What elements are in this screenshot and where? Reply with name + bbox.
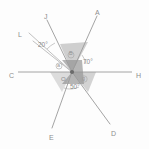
vertex-label-a: A [95, 9, 100, 16]
vertex-label-e: E [49, 134, 54, 141]
center-label-o: O [61, 76, 66, 82]
mark-label-a: a [57, 63, 60, 69]
vertex-label-c: C [9, 72, 14, 79]
vertex-label-d: D [111, 130, 116, 137]
vertex-label-j: J [44, 13, 48, 20]
angle-label-70: 70° [83, 59, 93, 66]
mark-label-g: g [82, 76, 85, 82]
figure-canvas [0, 0, 149, 149]
angle-label-20: 20° [38, 42, 48, 49]
vertex-label-l: L [18, 31, 22, 38]
arc-20 [47, 43, 55, 49]
angle-label-50: 50° [70, 84, 80, 91]
center-point-o [70, 70, 74, 74]
geometry-figure: J A L C H E D 20° 70° 50° B a g O [0, 0, 149, 149]
vertex-label-h: H [136, 72, 141, 79]
mark-label-b: B [69, 51, 73, 57]
